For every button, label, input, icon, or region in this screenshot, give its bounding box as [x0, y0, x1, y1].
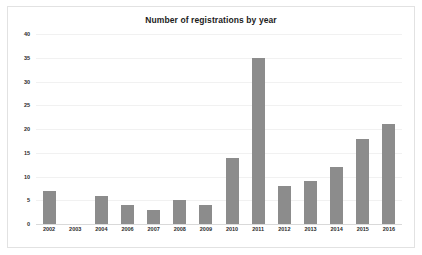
bar	[43, 191, 56, 224]
bar	[304, 181, 317, 224]
x-tick-label: 2002	[43, 226, 55, 232]
x-tick-label: 2012	[278, 226, 290, 232]
y-tick-label: 10	[24, 174, 30, 180]
x-tick-label: 2008	[174, 226, 186, 232]
x-tick-label: 2003	[69, 226, 81, 232]
bar	[199, 205, 212, 224]
x-tick-label: 2006	[121, 226, 133, 232]
y-tick-label: 20	[24, 126, 30, 132]
x-tick-label: 2014	[331, 226, 343, 232]
y-tick-label: 0	[27, 221, 30, 227]
x-tick-label: 2015	[357, 226, 369, 232]
bar	[95, 196, 108, 225]
y-tick-label: 35	[24, 55, 30, 61]
plot-area	[36, 34, 402, 224]
x-tick-label: 2016	[383, 226, 395, 232]
chart-title: Number of registrations by year	[0, 15, 422, 25]
bar	[226, 158, 239, 225]
x-tick-label: 2010	[226, 226, 238, 232]
y-tick-label: 5	[27, 197, 30, 203]
x-tick-label: 2009	[200, 226, 212, 232]
y-tick-label: 25	[24, 102, 30, 108]
y-tick-label: 30	[24, 79, 30, 85]
bar-series	[36, 34, 402, 224]
bar	[278, 186, 291, 224]
y-tick-label: 40	[24, 31, 30, 37]
x-tick-label: 2004	[95, 226, 107, 232]
y-tick-label: 15	[24, 150, 30, 156]
bar	[356, 139, 369, 225]
bar	[252, 58, 265, 224]
x-tick-label: 2011	[252, 226, 264, 232]
bar	[330, 167, 343, 224]
bar	[173, 200, 186, 224]
bar	[121, 205, 134, 224]
bar	[382, 124, 395, 224]
chart-figure: Number of registrations by year 05101520…	[0, 0, 422, 255]
x-tick-label: 2013	[304, 226, 316, 232]
y-axis-tick-labels: 0510152025303540	[0, 34, 34, 224]
gridline	[36, 224, 402, 225]
x-axis-tick-labels: 2002200320042006200720082009201020112012…	[36, 226, 402, 240]
x-tick-label: 2007	[148, 226, 160, 232]
bar	[147, 210, 160, 224]
